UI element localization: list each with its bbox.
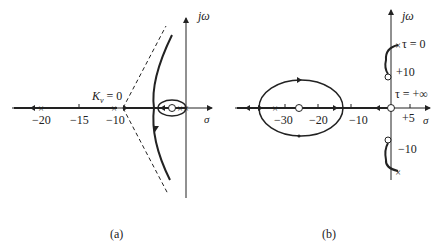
svg-text:×: × (395, 167, 401, 178)
panel-a: × × × × (12, 18, 212, 198)
tick-label-b-pos5: +5 (402, 112, 415, 124)
gain-annotation-a: Kv = 0 (92, 90, 122, 107)
tick-label-b-neg20: −20 (309, 114, 328, 126)
tick-label-b-neg10: −10 (349, 114, 368, 126)
svg-text:×: × (183, 103, 189, 114)
caption-a: (a) (110, 228, 123, 240)
tick-label-b-pos10j: +10 (396, 66, 415, 78)
tick-label-a-neg15: −15 (70, 114, 89, 126)
tick-label-a-neg20: −20 (32, 114, 51, 126)
jw-label-b: jω (402, 10, 414, 22)
svg-text:×: × (177, 103, 183, 114)
sigma-label-a: σ (204, 113, 209, 125)
caption-b: (b) (322, 228, 336, 240)
svg-text:×: × (395, 40, 401, 51)
jw-label-a: jω (198, 10, 210, 22)
tick-label-b-neg30: −30 (274, 114, 293, 126)
tick-label-a-neg10: −10 (106, 114, 125, 126)
tau-inf-annotation: τ = +∞ (395, 88, 428, 100)
sigma-label-b: σ (423, 114, 428, 126)
tau-zero-annotation: τ = 0 (402, 38, 426, 50)
tick-label-b-neg10j: −10 (398, 143, 417, 155)
root-locus-figure: × × × × × × (0, 0, 439, 252)
